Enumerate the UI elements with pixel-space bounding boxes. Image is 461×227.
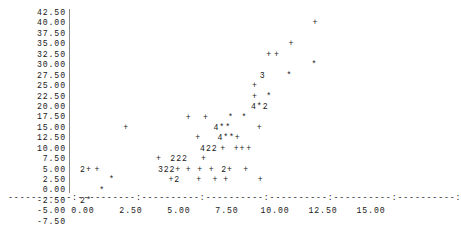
data-point-glyph: + [257,123,263,133]
y-tick-label: 37.50 [0,29,66,39]
data-point-glyph: * [109,175,115,185]
x-axis-line: -----------:----------:----------:------… [8,193,461,203]
data-point-glyph: + [201,154,207,164]
x-tick-label: 5.00 [167,205,190,217]
x-axis-tick-labels: 0.002.505.007.5010.0012.5015.00 [0,205,397,217]
data-point-glyph: 4**+ [217,133,240,143]
data-point-glyph: + [196,175,202,185]
data-point-glyph: + [258,175,264,185]
data-point-glyph: ++ [234,144,246,154]
data-point-glyph: 2+ [221,165,233,175]
data-point-glyph: + [312,18,318,28]
data-point-glyph: + [246,144,252,154]
data-point-glyph: + [95,165,101,175]
y-tick-label: 27.50 [0,71,66,81]
data-point-glyph: + [266,50,272,60]
x-tick-label: 2.50 [119,205,142,217]
y-tick-label: 35.00 [0,39,66,49]
y-tick-label: 5.00 [0,165,66,175]
data-point-glyph: + [274,50,280,60]
y-tick-label: 22.50 [0,92,66,102]
data-point-glyph: 4** [214,123,231,133]
y-tick-label: 17.50 [0,112,66,122]
data-point-glyph: 222 [170,154,187,164]
data-point-glyph: +2 [168,175,180,185]
data-point-glyph: * [311,60,317,70]
data-point-glyph: + [288,39,294,49]
y-tick-label: 25.00 [0,81,66,91]
data-point-glyph: * [266,92,272,102]
data-point-glyph: + [252,81,258,91]
data-point-glyph: 2+ [80,165,92,175]
plot-area: ++++*3*++*4*2++**+4**++4**+422+++++222+2… [70,8,397,193]
x-tick-label: 0.00 [71,205,94,217]
data-point-glyph: + [213,175,219,185]
x-tick-label: 15.00 [356,205,385,217]
data-point-glyph: + [197,165,203,175]
x-tick-label: 10.00 [260,205,289,217]
y-tick-label: 15.00 [0,123,66,133]
data-point-glyph: + [195,133,201,143]
data-point-glyph: + [220,144,226,154]
x-tick-label: 12.50 [308,205,337,217]
data-point-glyph: + [186,165,192,175]
data-point-glyph: + [243,165,249,175]
y-tick-label: 20.00 [0,102,66,112]
data-point-glyph: + [223,175,229,185]
x-tick-label: 7.50 [215,205,238,217]
y-tick-label: 12.50 [0,133,66,143]
y-tick-label: 30.00 [0,60,66,70]
data-point-glyph: 3 [260,71,266,81]
y-tick-label: 2.50 [0,175,66,185]
y-tick-label: 10.00 [0,144,66,154]
data-point-glyph: + [252,92,258,102]
data-point-glyph: * [287,71,293,81]
y-tick-label: 40.00 [0,18,66,28]
y-tick-label: -7.50 [0,217,66,227]
data-point-glyph: + [156,154,162,164]
data-point-glyph: + [123,123,129,133]
data-point-glyph: + [186,113,192,123]
y-tick-label: 42.50 [0,8,66,18]
y-tick-label: 7.50 [0,154,66,164]
data-point-glyph: 4*2 [251,102,268,112]
y-tick-label: 32.50 [0,50,66,60]
data-point-glyph: 322+ [158,165,181,175]
data-point-glyph: * [241,113,247,123]
data-point-glyph: 422 [200,144,217,154]
data-point-glyph: * [228,113,234,123]
data-point-glyph: + [209,165,215,175]
data-point-glyph: + [203,113,209,123]
